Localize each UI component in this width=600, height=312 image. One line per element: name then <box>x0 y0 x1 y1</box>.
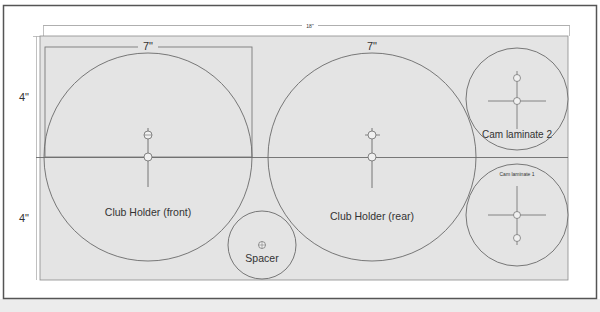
cam-hole-icon <box>514 235 521 242</box>
upper-height-label: 4" <box>19 91 29 103</box>
pivot-hole-icon <box>368 131 376 139</box>
center-hole-icon <box>144 153 152 161</box>
cam-laminate-1: Cam laminate 1 <box>466 164 568 266</box>
layout-drawing: 18" 7" Club Holder (front) 7" Club Holde… <box>0 0 600 312</box>
club-holder-front-label: Club Holder (front) <box>105 206 191 218</box>
lower-height-label: 4" <box>19 212 29 224</box>
club-holder-rear-label: Club Holder (rear) <box>330 210 414 222</box>
cam-center-hole-icon <box>514 212 521 219</box>
cam-center-hole-icon <box>514 98 521 105</box>
center-hole-icon <box>368 153 376 161</box>
cam-laminate-2-label: Cam laminate 2 <box>482 129 552 140</box>
front-width-label: 7" <box>143 40 153 52</box>
cam-laminate-1-label: Cam laminate 1 <box>499 171 534 177</box>
overall-width-label: 18" <box>306 23 314 29</box>
cam-hole-icon <box>514 75 521 82</box>
cam-laminate-2: Cam laminate 2 <box>466 48 568 150</box>
spacer-label: Spacer <box>245 252 279 264</box>
spacer: Spacer <box>228 211 296 279</box>
rear-width-label: 7" <box>367 40 377 52</box>
